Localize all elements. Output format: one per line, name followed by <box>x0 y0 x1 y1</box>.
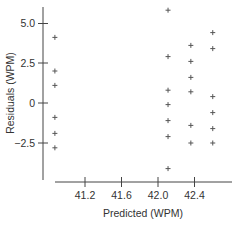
data-point-plus-marker <box>52 35 57 40</box>
data-point-plus-marker <box>52 83 57 88</box>
data-point-plus-marker <box>166 166 171 171</box>
y-tick-label: −2.5 <box>14 137 35 149</box>
data-point-plus-marker <box>188 89 193 94</box>
data-point-plus-marker <box>52 145 57 150</box>
data-point-plus-marker <box>166 134 171 139</box>
y-tick-label: 5.0 <box>20 17 35 29</box>
x-tick-label: 41.2 <box>75 189 96 201</box>
data-point-plus-marker <box>166 88 171 93</box>
x-tick-label: 42.4 <box>184 189 205 201</box>
y-tick-label: 0 <box>29 97 35 109</box>
data-point-plus-marker <box>166 54 171 59</box>
data-point-plus-marker <box>188 123 193 128</box>
y-tick-label: 2.5 <box>20 57 35 69</box>
data-point-plus-marker <box>52 69 57 74</box>
data-point-plus-marker <box>210 30 215 35</box>
data-point-plus-marker <box>52 115 57 120</box>
data-point-plus-marker <box>188 59 193 64</box>
y-axis-title: Residuals (WPM) <box>4 52 16 134</box>
y-axis-tick-labels: 5.0 2.5 0 −2.5 <box>14 17 35 149</box>
data-point-plus-marker <box>52 131 57 136</box>
data-point-plus-marker <box>188 75 193 80</box>
data-point-plus-marker <box>210 126 215 131</box>
data-point-plus-marker <box>166 118 171 123</box>
data-points <box>52 8 215 171</box>
x-tick-label: 42.0 <box>148 189 169 201</box>
data-point-plus-marker <box>188 141 193 146</box>
x-axis-tick-labels: 41.2 41.6 42.0 42.4 <box>75 189 205 201</box>
data-point-plus-marker <box>166 102 171 107</box>
data-point-plus-marker <box>166 8 171 13</box>
data-point-plus-marker <box>210 46 215 51</box>
data-point-plus-marker <box>188 43 193 48</box>
x-axis-title: Predicted (WPM) <box>103 207 183 219</box>
data-point-plus-marker <box>210 110 215 115</box>
x-tick-label: 41.6 <box>111 189 132 201</box>
residual-scatter-chart: 5.0 2.5 0 −2.5 Residuals (WPM) 41.2 41.6… <box>0 0 240 227</box>
data-point-plus-marker <box>210 94 215 99</box>
data-point-plus-marker <box>210 141 215 146</box>
